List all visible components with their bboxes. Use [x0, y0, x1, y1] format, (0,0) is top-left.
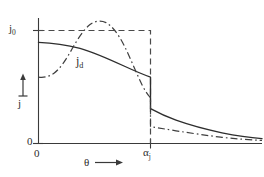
y-axis-arrow — [19, 74, 28, 97]
curve-j0-dashed — [39, 31, 151, 144]
y-tick-label-zero: 0 — [27, 136, 33, 147]
curve-label-jd-sub: d — [79, 61, 83, 70]
y-tick-label-j0-sub: 0 — [12, 28, 16, 37]
x-tick-label-zero: 0 — [34, 148, 40, 159]
x-tick-label-alpha-j: αj — [143, 147, 151, 161]
x-tick-label-alpha-sub: j — [149, 152, 151, 161]
y-tick-label-j0: j0 — [9, 23, 16, 37]
y-axis-title: j — [18, 98, 21, 109]
x-axis-arrow — [95, 160, 123, 166]
figure-container: j0 0 0 αj jd j θ — [0, 0, 264, 177]
curve-label-jd: jd — [76, 55, 83, 71]
x-axis-title: θ — [84, 157, 89, 168]
